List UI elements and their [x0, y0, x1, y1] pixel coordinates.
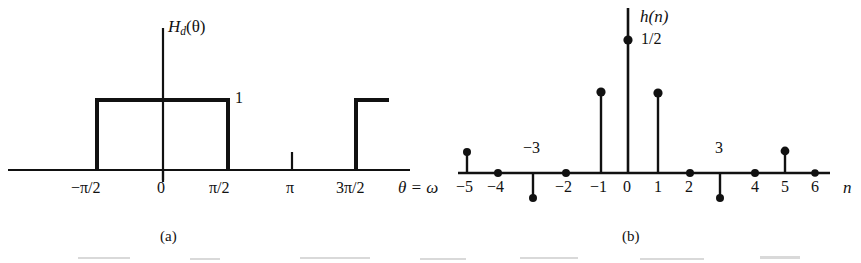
stem-n-0	[623, 35, 632, 44]
panel-a-y-axis-label-main: H	[168, 17, 180, 36]
panel-b-tick-label-5: 5	[781, 179, 789, 195]
panel-a-y-axis-label-arg: (θ)	[186, 17, 205, 36]
panel-b-tick-label-6: 6	[811, 179, 819, 195]
panel-b-tick-label-4: 4	[751, 179, 759, 195]
panel-a-tick-label-pi: π	[286, 180, 294, 196]
panel-b-tick-label-3: 3	[715, 140, 723, 156]
panel-b-y-axis-label: h(n)	[640, 8, 668, 25]
panel-b-tick-label-0: 0	[623, 179, 631, 195]
panel-b-tick-label-minus-5: −5	[456, 179, 473, 195]
panel-a-caption: (a)	[160, 229, 177, 244]
stem-n-6	[811, 169, 819, 177]
panel-b-caption: (b)	[622, 229, 640, 244]
panel-b-peak-label: 1/2	[641, 31, 661, 47]
panel-b-tick-label-minus-1: −1	[590, 179, 607, 195]
panel-a-tick-label-zero: 0	[157, 180, 165, 196]
panel-b-tick-label-2: 2	[685, 179, 693, 195]
stem-n-minus-3	[529, 173, 537, 202]
stem-n-minus-5	[463, 148, 471, 173]
panel-b-tick-label-1: 1	[654, 179, 662, 195]
stem-n-3	[716, 173, 724, 202]
stem-n-5	[781, 147, 790, 173]
panel-b-x-axis-label: n	[843, 179, 852, 196]
stem-n-4	[751, 169, 759, 177]
passband-rectangle-repeat	[356, 100, 389, 170]
panel-a-frequency-response: Hd(θ) 1 −π/2 0 π/2 π 3π/2 θ = ω (a)	[0, 0, 430, 263]
panel-a-tick-label-half-pi: π/2	[209, 180, 230, 196]
panel-b-impulse-response: h(n) 1/2 −3 3 −5 −4 −2 −1 0 1 2 4 5 6 n …	[430, 0, 861, 263]
stem-n-minus-1	[596, 87, 605, 173]
stem-n-minus-2	[562, 169, 570, 177]
figure-container: Hd(θ) 1 −π/2 0 π/2 π 3π/2 θ = ω (a)	[0, 0, 861, 263]
stem-n-2	[686, 169, 694, 177]
panel-a-plot	[0, 0, 430, 263]
panel-a-amplitude-label: 1	[235, 90, 243, 106]
panel-b-tick-label-minus-2: −2	[555, 179, 572, 195]
panel-a-y-axis-label: Hd(θ)	[168, 18, 206, 38]
panel-b-tick-label-minus-4: −4	[487, 179, 504, 195]
panel-a-tick-label-three-half-pi: 3π/2	[336, 180, 365, 196]
panel-b-tick-label-minus-3: −3	[523, 140, 540, 156]
stem-n-1	[653, 88, 662, 173]
stem-n-minus-4	[494, 169, 502, 177]
panel-a-tick-label-neg-half-pi: −π/2	[71, 180, 101, 196]
